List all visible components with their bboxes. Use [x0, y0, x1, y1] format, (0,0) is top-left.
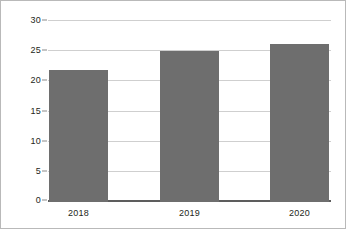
bar-2020[interactable] [270, 44, 329, 202]
ytick-label-2: 10 [31, 136, 41, 146]
ytick-label-4: 20 [31, 75, 41, 85]
ytick-mark-2 [42, 140, 47, 141]
plot-area: 0 5 10 15 20 25 30 [48, 21, 331, 202]
xtick-label-2019: 2019 [150, 208, 230, 218]
ytick-mark-5 [42, 50, 47, 51]
bar-chart: 0 5 10 15 20 25 30 2018 [0, 0, 346, 229]
ytick-label-0: 0 [36, 195, 41, 205]
ytick-mark-6 [42, 20, 47, 21]
ytick-label-3: 15 [31, 106, 41, 116]
ytick-label-6: 30 [31, 15, 41, 25]
bar-2018[interactable] [49, 70, 108, 202]
ytick-mark-3 [42, 110, 47, 111]
ytick-mark-4 [42, 80, 47, 81]
ytick-mark-0 [42, 200, 47, 201]
bar-2019[interactable] [160, 51, 219, 202]
xtick-label-2018: 2018 [39, 208, 119, 218]
gridline-6: 30 [48, 20, 331, 21]
ytick-label-5: 25 [31, 45, 41, 55]
ytick-mark-1 [42, 170, 47, 171]
xtick-label-2020: 2020 [260, 208, 340, 218]
ytick-label-1: 5 [36, 166, 41, 176]
